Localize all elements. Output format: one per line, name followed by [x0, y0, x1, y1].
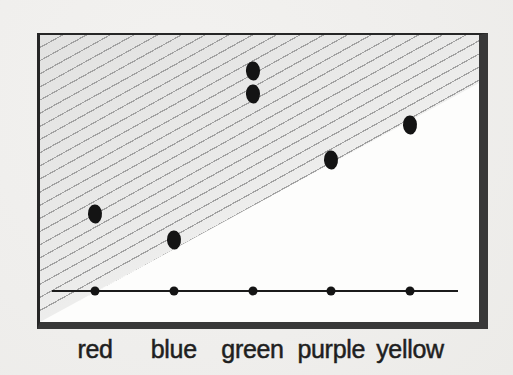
axis-label-yellow: yellow	[376, 336, 444, 362]
data-point-blue	[166, 230, 181, 250]
scanned-figure-page: redbluegreenpurpleyellow	[0, 0, 513, 375]
plot-area	[40, 35, 479, 322]
hatched-region	[40, 35, 479, 322]
data-point-red	[91, 287, 100, 296]
axis-label-blue: blue	[151, 336, 197, 362]
data-point-yellow	[406, 287, 415, 296]
data-point-yellow	[402, 115, 417, 135]
axis-label-green: green	[221, 336, 283, 362]
data-point-purple	[324, 150, 339, 170]
x-axis-labels: redbluegreenpurpleyellow	[0, 336, 513, 366]
data-point-purple	[327, 287, 336, 296]
data-point-green	[248, 287, 257, 296]
plot-box	[37, 33, 488, 329]
axis-label-red: red	[77, 336, 112, 362]
axis-label-purple: purple	[297, 336, 365, 362]
data-point-blue	[169, 287, 178, 296]
